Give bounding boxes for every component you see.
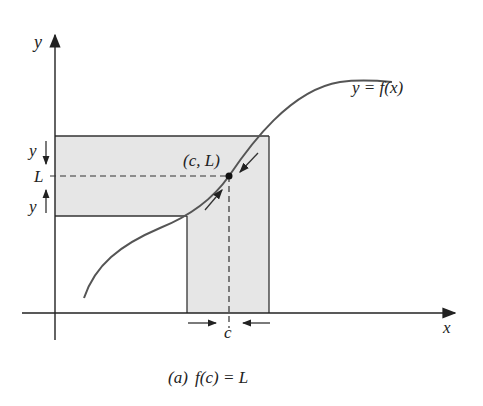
caption-label: (a) xyxy=(168,368,188,387)
caption: (a) f(c) = L xyxy=(168,368,248,387)
x-axis-label: x xyxy=(442,318,451,337)
L-label: L xyxy=(33,167,43,186)
y-axis-label: y xyxy=(32,32,42,52)
y-arrow-label-top: y xyxy=(27,141,37,160)
point-label: (c, L) xyxy=(183,151,220,170)
caption-text: f(c) = L xyxy=(195,368,248,387)
y-arrow-label-bottom: y xyxy=(27,197,37,216)
c-label: c xyxy=(224,323,232,342)
point-c-L xyxy=(226,173,233,180)
continuity-diagram: y x y = f(x) (c, L) L y y c (a) f(c) = L xyxy=(0,0,483,406)
curve-label: y = f(x) xyxy=(350,78,403,97)
